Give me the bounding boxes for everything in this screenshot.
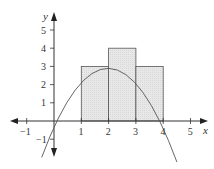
- y-tick-label: 1: [41, 97, 46, 108]
- x-tick-label: 4: [160, 126, 165, 137]
- bars: [81, 48, 163, 121]
- y-axis-down-arrow-icon: [51, 148, 57, 157]
- x-axis-left-arrow-icon: [10, 118, 18, 124]
- x-axis-label: x: [202, 124, 208, 136]
- x-tick-label: 5: [188, 126, 193, 137]
- y-tick-label: 2: [41, 79, 46, 90]
- y-axis-up-arrow-icon: [51, 12, 57, 21]
- x-tick-label: 3: [133, 126, 138, 137]
- y-tick-label: −1: [36, 134, 47, 145]
- bar-1-to-2: [81, 66, 108, 121]
- x-tick-label: −1: [20, 126, 31, 137]
- y-axis: [50, 12, 57, 157]
- y-tick-label: 4: [41, 43, 46, 54]
- y-tick-label: 5: [41, 25, 46, 36]
- x-axis: [10, 118, 208, 124]
- y-axis-label: y: [42, 10, 48, 22]
- bar-3-to-4: [136, 66, 163, 121]
- bar-2-to-3: [109, 48, 136, 121]
- x-tick-label: 1: [79, 126, 84, 137]
- x-tick-label: 2: [106, 126, 111, 137]
- y-tick-label: 3: [41, 61, 46, 72]
- riemann-sum-chart: −1 1 2 3 4 5 5 4 3 2 1 −1 x y: [0, 0, 214, 169]
- y-tick-labels: 5 4 3 2 1 −1: [36, 25, 47, 145]
